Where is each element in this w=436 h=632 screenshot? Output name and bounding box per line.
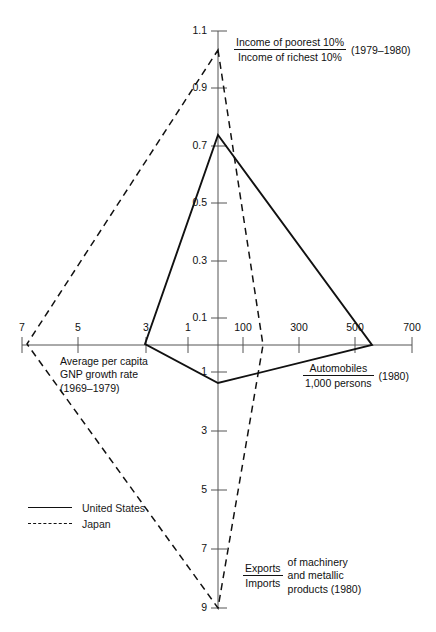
- tick-label-right-500: 500: [339, 321, 371, 333]
- axis-label-automobiles-denominator: 1,000 persons: [303, 376, 374, 390]
- axis-label-automobiles-fraction: Automobiles 1,000 persons: [303, 362, 374, 391]
- axis-label-exports-suffix-line3: products (1980): [288, 583, 362, 596]
- axis-label-exports-numerator: Exports: [243, 562, 283, 576]
- axis-label-income-numerator: Income of poorest 10%: [234, 36, 346, 50]
- legend-item-japan: Japan: [28, 516, 145, 532]
- axis-label-gnp-line3: (1969–1979): [60, 382, 148, 395]
- tick-label-up-1.1: 1.1: [183, 24, 207, 36]
- tick-label-down-3: 3: [189, 424, 207, 436]
- chart-legend: United States Japan: [28, 500, 145, 532]
- axis-label-income-ratio: Income of poorest 10% Income of richest …: [234, 36, 411, 65]
- tick-label-down-7: 7: [189, 542, 207, 554]
- tick-label-left-1: 1: [176, 321, 200, 333]
- legend-swatch-dashed-icon: [28, 519, 72, 529]
- axis-label-income-fraction: Income of poorest 10% Income of richest …: [234, 36, 346, 65]
- tick-label-up-0.9: 0.9: [183, 81, 207, 93]
- tick-label-left-7: 7: [10, 321, 34, 333]
- axis-label-automobiles-numerator: Automobiles: [303, 362, 374, 376]
- axis-label-exports-suffix-line1: of machinery: [288, 556, 362, 569]
- tick-label-left-3: 3: [134, 321, 158, 333]
- tick-label-right-300: 300: [283, 321, 315, 333]
- axis-label-gnp-growth: Average per capita GNP growth rate (1969…: [60, 355, 148, 395]
- tick-label-up-0.5: 0.5: [183, 196, 207, 208]
- tick-label-down-1: 1: [189, 365, 207, 377]
- tick-label-up-0.7: 0.7: [183, 139, 207, 151]
- tick-label-down-9: 9: [189, 601, 207, 613]
- legend-swatch-solid-icon: [28, 503, 72, 513]
- tick-label-down-5: 5: [189, 483, 207, 495]
- radar-chart-canvas: [0, 0, 436, 632]
- axis-label-exports-denominator: Imports: [243, 576, 283, 590]
- series-polygon-united-states: [145, 135, 372, 383]
- axis-label-gnp-line1: Average per capita: [60, 355, 148, 368]
- radar-chart: 1.1 0.9 0.7 0.5 0.3 0.1 1 3 5 7 9 7 5 3 …: [0, 0, 436, 632]
- axis-label-automobiles-suffix: (1980): [379, 370, 409, 383]
- tick-label-up-0.3: 0.3: [183, 254, 207, 266]
- axis-label-exports-suffix-line2: and metallic: [288, 569, 362, 582]
- legend-item-united-states: United States: [28, 500, 145, 516]
- legend-label-united-states: United States: [82, 502, 145, 514]
- legend-label-japan: Japan: [82, 518, 111, 530]
- axis-label-exports-fraction: Exports Imports: [243, 562, 283, 591]
- tick-label-right-100: 100: [227, 321, 259, 333]
- tick-label-left-5: 5: [66, 321, 90, 333]
- axis-label-automobiles: Automobiles 1,000 persons (1980): [303, 362, 409, 391]
- tick-group-up: [211, 31, 227, 318]
- tick-label-right-700: 700: [396, 321, 428, 333]
- axis-label-exports-suffix: of machinery and metallic products (1980…: [288, 556, 362, 596]
- axis-label-income-suffix: (1979–1980): [351, 44, 411, 57]
- axis-label-exports-imports: Exports Imports of machinery and metalli…: [243, 556, 361, 596]
- axis-label-gnp-line2: GNP growth rate: [60, 368, 148, 381]
- axis-label-income-denominator: Income of richest 10%: [234, 50, 346, 64]
